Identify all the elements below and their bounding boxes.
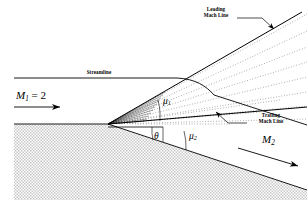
trailing-mach-line-label: Trailing Mach Line xyxy=(248,113,294,124)
m2-flow-arrow xyxy=(238,148,298,166)
mach-in-symbol: M xyxy=(16,89,25,101)
mach-in-value: = 2 xyxy=(29,89,46,101)
mu2-subscript: 2 xyxy=(194,134,197,141)
mu1-subscript: 1 xyxy=(168,99,171,106)
streamline-label: Streamline xyxy=(74,70,124,76)
mach-number-outlet-label: M2 xyxy=(262,133,275,147)
theta-angle-arc xyxy=(152,127,153,140)
mach-out-symbol: M xyxy=(262,133,271,145)
expansion-fan-rays xyxy=(108,14,307,124)
mu2-label: μ2 xyxy=(189,131,197,142)
leading-mach-line-label: Leading Mach Line xyxy=(194,7,238,18)
theta-symbol: θ xyxy=(154,131,159,141)
mu2-angle-arc xyxy=(184,131,186,150)
leading-mach-leader xyxy=(237,18,274,29)
mach-number-inlet-label: M1 = 2 xyxy=(16,89,46,103)
theta-label: θ xyxy=(154,131,159,142)
expansion-fan-figure: Leading Mach Line Trailing Mach Line Str… xyxy=(0,0,307,200)
mu1-angle-arc xyxy=(158,100,160,113)
diagram-canvas xyxy=(0,0,307,200)
mach-out-subscript: 2 xyxy=(271,139,275,147)
streamline-label-text: Streamline xyxy=(87,69,112,75)
leading-mach-line-label-line2: Mach Line xyxy=(204,12,229,18)
mu1-label: μ1 xyxy=(163,96,171,107)
trailing-mach-line-label-line2: Mach Line xyxy=(259,118,284,124)
leading-mach-line xyxy=(108,12,302,124)
